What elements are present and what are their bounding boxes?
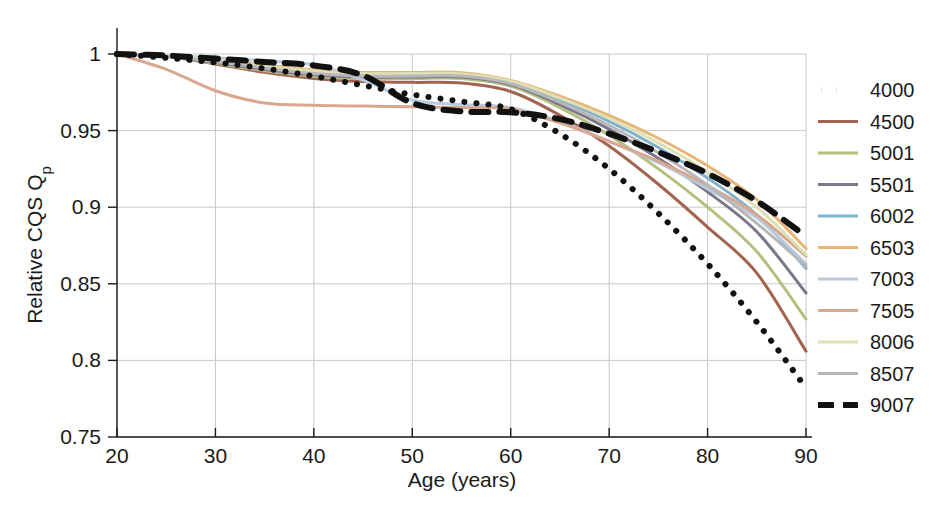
- line-chart: 2030405060708090 0.750.80.850.90.951 400…: [0, 0, 933, 514]
- y-tick-label: 0.95: [60, 119, 101, 142]
- legend-label-7505[interactable]: 7505: [870, 300, 915, 322]
- legend-label-8507[interactable]: 8507: [870, 363, 915, 385]
- x-axis-title: Age (years): [408, 468, 517, 491]
- legend-label-7003[interactable]: 7003: [870, 268, 915, 290]
- legend-label-5501[interactable]: 5501: [870, 174, 915, 196]
- x-tick-label: 80: [696, 444, 719, 467]
- x-tick-label: 70: [597, 444, 620, 467]
- chart-figure: 2030405060708090 0.750.80.850.90.951 400…: [0, 0, 933, 514]
- legend-label-8006[interactable]: 8006: [870, 331, 915, 353]
- y-tick-label: 0.9: [72, 195, 101, 218]
- legend-label-5001[interactable]: 5001: [870, 142, 915, 164]
- y-tick-label: 1: [89, 42, 101, 65]
- x-tick-label: 90: [794, 444, 817, 467]
- legend-label-6503[interactable]: 6503: [870, 237, 915, 259]
- x-tick-label: 30: [204, 444, 227, 467]
- y-tick-label: 0.75: [60, 425, 101, 448]
- legend-label-6002[interactable]: 6002: [870, 205, 915, 227]
- x-tick-label: 50: [401, 444, 424, 467]
- legend-label-4500[interactable]: 4500: [870, 111, 915, 133]
- legend-label-4000[interactable]: 4000: [870, 79, 915, 101]
- x-tick-label: 20: [105, 444, 128, 467]
- x-tick-label: 60: [499, 444, 522, 467]
- x-tick-label: 40: [302, 444, 325, 467]
- legend-label-9007[interactable]: 9007: [870, 394, 915, 416]
- y-tick-label: 0.85: [60, 272, 101, 295]
- y-tick-label: 0.8: [72, 348, 101, 371]
